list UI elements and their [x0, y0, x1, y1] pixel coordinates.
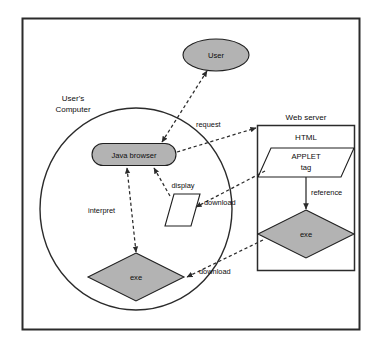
applet-tag-label-line1: APPLET [291, 152, 320, 161]
web-server-label: Web server [286, 113, 327, 122]
edge-interpret-label: interpret [88, 206, 115, 215]
applet-tag-label-line2: tag [301, 163, 312, 172]
edge-reference-label: reference [311, 188, 342, 197]
edge-interpret-line [127, 168, 136, 252]
java-browser-label: Java browser [111, 151, 157, 160]
client-exe-label: exe [130, 273, 142, 282]
server-exe-label: exe [300, 230, 312, 239]
edge-download-exe-label: download [199, 267, 231, 276]
edge-browser-user-line [162, 71, 207, 142]
edge-request-label: request [196, 120, 221, 129]
edge-request-line [177, 128, 256, 152]
users-computer-label-line1: User's [62, 94, 84, 103]
html-label: HTML [295, 133, 317, 142]
applet-flow-diagram: User's Computer Web server HTML APPLET t… [0, 0, 380, 360]
display-label: display [171, 181, 194, 190]
edge-display-browser-line [154, 168, 170, 196]
edge-download-display-label: download [204, 198, 236, 207]
display-shape[interactable] [165, 194, 200, 226]
users-computer-label-line2: Computer [55, 105, 90, 114]
diagram-canvas: User's Computer Web server HTML APPLET t… [0, 0, 380, 360]
user-label: User [208, 51, 225, 60]
